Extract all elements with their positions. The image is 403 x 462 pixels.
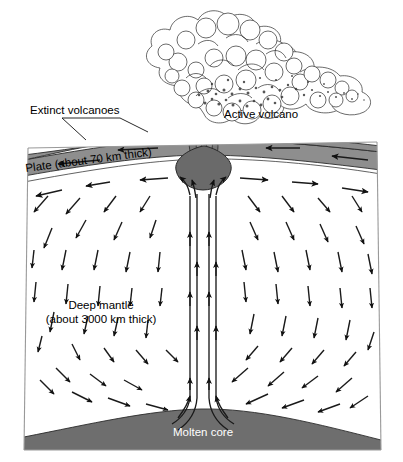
label-deep-mantle-line1: Deep mantle <box>68 299 133 311</box>
label-extinct-volcanoes: Extinct volcanoes <box>30 104 120 116</box>
label-deep-mantle-line2: (about 3000 km thick) <box>46 313 157 325</box>
volcano-cross-section-figure: Extinct volcanoes Active volcano Plate (… <box>0 0 403 462</box>
label-active-volcano: Active volcano <box>224 108 298 120</box>
diagram-canvas: Extinct volcanoes Active volcano Plate (… <box>0 0 403 462</box>
label-molten-core: Molten core <box>173 426 233 438</box>
